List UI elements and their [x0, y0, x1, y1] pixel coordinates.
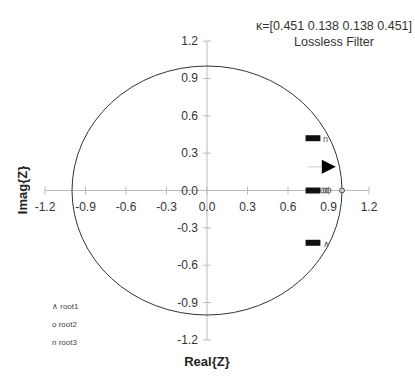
direction-arrow-icon — [322, 160, 336, 174]
legend-item-root3: n root3 — [52, 338, 77, 347]
legend-item-root2: o root2 — [52, 320, 77, 329]
svg-text:0.0: 0.0 — [181, 184, 198, 198]
svg-text:0.9: 0.9 — [320, 200, 337, 214]
svg-text:n: n — [323, 134, 328, 144]
svg-text:-0.6: -0.6 — [177, 258, 198, 272]
svg-text:-0.6: -0.6 — [116, 200, 137, 214]
svg-text:-0.3: -0.3 — [177, 221, 198, 235]
svg-text:-0.3: -0.3 — [156, 200, 177, 214]
svg-text:-1.2: -1.2 — [35, 200, 56, 214]
svg-text:-0.9: -0.9 — [177, 296, 198, 310]
chart-title: κ=[0.451 0.138 0.138 0.451] — [253, 19, 415, 33]
root2-trace — [306, 188, 321, 194]
svg-text:1.2: 1.2 — [181, 34, 198, 48]
svg-text:-1.2: -1.2 — [177, 333, 198, 347]
legend-item-root1: ∧ root1 — [52, 302, 78, 311]
svg-text:1.2: 1.2 — [361, 200, 378, 214]
svg-text:0.0: 0.0 — [199, 200, 216, 214]
svg-text:0.3: 0.3 — [239, 200, 256, 214]
svg-text:-0.9: -0.9 — [75, 200, 96, 214]
svg-text:0.9: 0.9 — [181, 71, 198, 85]
chart-subtitle: Lossless Filter — [253, 35, 415, 49]
root1-trace — [306, 240, 321, 246]
x-axis-label: Real{Z} — [184, 354, 230, 369]
svg-text:∧: ∧ — [323, 239, 330, 249]
y-axis-label: Imag{Z} — [15, 166, 30, 214]
svg-text:0.3: 0.3 — [181, 146, 198, 160]
root3-trace — [306, 135, 321, 141]
svg-text:0.6: 0.6 — [280, 200, 297, 214]
svg-text:0.6: 0.6 — [181, 109, 198, 123]
